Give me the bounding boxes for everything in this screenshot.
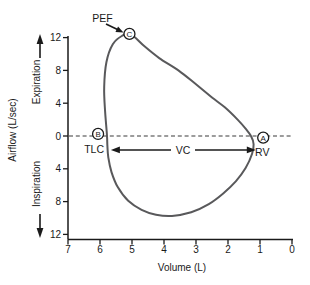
marker-c-letter: C	[127, 30, 133, 39]
pef-caption: PEF	[92, 12, 112, 24]
vc-label: VC	[176, 144, 191, 156]
y-axis-tick-label: 12	[50, 229, 62, 240]
y-axis-tick-label: 0	[55, 131, 61, 142]
expiration-arrowhead	[37, 34, 44, 44]
x-axis-tick-label: 1	[257, 244, 263, 255]
pef-callout-arrow	[106, 24, 118, 30]
inspiration-label: Inspiration	[31, 161, 42, 207]
x-axis-tick-label: 5	[129, 244, 135, 255]
y-axis-title: Airflow (L/sec)	[7, 98, 18, 161]
x-axis-tick-label: 4	[161, 244, 167, 255]
y-axis-tick-label: 8	[55, 65, 61, 76]
inspiration-arrowhead	[37, 228, 44, 238]
flow-volume-diagram: 12840481276543210Volume (L)Airflow (L/se…	[0, 0, 310, 285]
x-axis-title: Volume (L)	[158, 262, 206, 273]
pef-callout-arrowhead	[115, 27, 123, 33]
flow-volume-loop-curve	[104, 33, 254, 216]
tlc-caption: TLC	[84, 143, 104, 155]
y-axis-tick-label: 4	[55, 98, 61, 109]
x-axis-tick-label: 2	[225, 244, 231, 255]
y-axis-tick-label: 8	[55, 196, 61, 207]
x-axis-tick-label: 7	[65, 244, 71, 255]
expiration-label: Expiration	[31, 60, 42, 104]
marker-b-letter: B	[95, 130, 100, 139]
rv-caption: RV	[255, 146, 269, 158]
x-axis-tick-label: 0	[289, 244, 295, 255]
flow-volume-chart-svg: 12840481276543210Volume (L)Airflow (L/se…	[0, 0, 310, 285]
y-axis-tick-label: 12	[50, 32, 62, 43]
x-axis-tick-label: 3	[193, 244, 199, 255]
x-axis-tick-label: 6	[97, 244, 103, 255]
vc-left-arrowhead	[111, 147, 120, 154]
marker-a-letter: A	[261, 134, 267, 143]
y-axis-tick-label: 4	[55, 163, 61, 174]
